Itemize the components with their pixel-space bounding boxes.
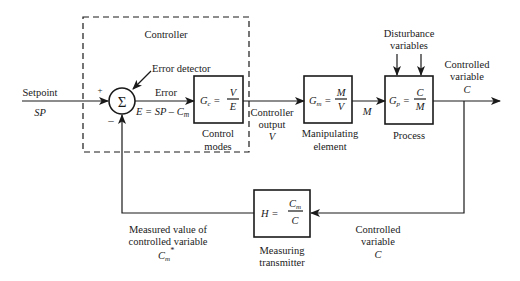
process-den: M: [415, 101, 426, 112]
feedback-input-label-2: variable: [361, 236, 395, 247]
manipulating-den: V: [338, 101, 346, 112]
process-caption: Process: [393, 130, 425, 141]
disturbance-label-2: variables: [390, 40, 428, 51]
measuring-caption-2: transmitter: [259, 257, 305, 268]
minus-sign: –: [107, 114, 114, 126]
error-label: Error: [155, 87, 178, 98]
controller-group-label: Controller: [144, 29, 188, 40]
measured-value-label-1: Measured value of: [129, 224, 208, 235]
manipulating-num: M: [336, 87, 347, 98]
process-gain: Gp =: [389, 95, 410, 108]
disturbance-label-1: Disturbance: [384, 28, 435, 39]
output-symbol: C: [463, 84, 471, 95]
measuring-equals: =: [272, 208, 278, 219]
control-loop-diagram: Controller Setpoint SP + Σ – Error detec…: [0, 0, 520, 281]
controller-gain: Gc =: [200, 95, 220, 108]
output-label-1: Controlled: [445, 59, 491, 70]
controller-output-symbol: V: [269, 131, 277, 142]
manipulating-caption-1: Manipulating: [302, 128, 359, 139]
measuring-den: C: [291, 215, 299, 226]
error-detector-pointer: [133, 71, 151, 89]
measured-value-label-2: controlled variable: [128, 236, 207, 247]
measuring-num: Cm: [289, 198, 301, 211]
controller-num: V: [230, 87, 238, 98]
controller-den: E: [229, 101, 237, 112]
error-detector-label: Error detector: [152, 63, 211, 74]
feedback-input-label-1: Controlled: [356, 224, 402, 235]
setpoint-label: Setpoint: [22, 87, 57, 98]
measuring-gain: H: [260, 208, 270, 219]
output-label-2: variable: [450, 71, 484, 82]
controller-output-label-2: output: [259, 119, 286, 130]
measuring-caption-1: Measuring: [260, 245, 306, 256]
setpoint-symbol: SP: [34, 107, 46, 118]
feedback-branch-line: [311, 101, 464, 213]
process-num: C: [416, 87, 424, 98]
controller-caption-1: Control: [202, 128, 234, 139]
measured-value-symbol: Cm*: [158, 246, 174, 263]
feedback-input-symbol: C: [374, 249, 382, 260]
manipulated-variable-symbol: M: [362, 106, 373, 117]
sigma-symbol: Σ: [118, 94, 127, 110]
measured-value-feedback-line: [122, 115, 254, 213]
plus-sign: +: [97, 85, 102, 95]
manipulating-caption-2: element: [313, 141, 346, 152]
manipulating-gain: Gm =: [309, 95, 331, 108]
controller-output-label-1: Controller: [250, 107, 294, 118]
controller-caption-2: modes: [204, 141, 231, 152]
error-equation: E = SP – Cm: [135, 106, 190, 119]
